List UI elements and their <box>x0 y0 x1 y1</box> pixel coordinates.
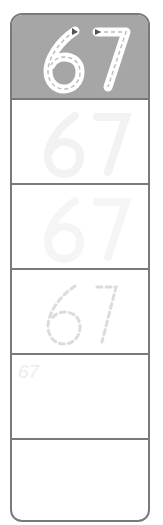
fainter-number-67-icon <box>12 185 148 268</box>
trace-row-5-blank <box>12 438 148 522</box>
tracing-worksheet: 67 <box>10 13 150 522</box>
dashed-number-67-icon <box>12 270 148 353</box>
small-hint-number: 67 <box>18 361 39 383</box>
faint-number-67-icon <box>12 100 148 183</box>
header-number-panel <box>12 15 148 98</box>
trace-row-1 <box>12 98 148 183</box>
trace-row-2 <box>12 183 148 268</box>
trace-row-4: 67 <box>12 353 148 438</box>
traced-number-67-icon <box>12 15 148 98</box>
trace-row-3 <box>12 268 148 353</box>
